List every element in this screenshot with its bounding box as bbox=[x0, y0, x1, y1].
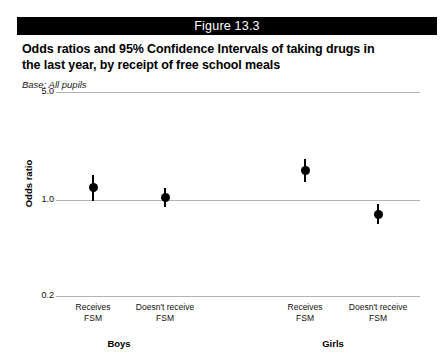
x-axis-label-line-2: FSM bbox=[330, 313, 426, 324]
data-point-marker bbox=[161, 193, 170, 202]
gridline-1-reference-line bbox=[56, 200, 420, 201]
y-tick-label-0-2: 0.2 bbox=[20, 290, 54, 300]
y-axis-title: Odds ratio bbox=[23, 149, 34, 219]
x-axis-label-line-1: Doesn't receive bbox=[117, 302, 213, 313]
x-axis-label-line-2: FSM bbox=[117, 313, 213, 324]
data-point-marker bbox=[301, 166, 310, 175]
x-axis-label: Doesn't receiveFSM bbox=[330, 302, 426, 323]
group-label-boys: Boys bbox=[44, 338, 194, 349]
plot-area: 5.0 1.0 0.2 Odds ratio ReceivesFSMDoesn'… bbox=[0, 0, 445, 360]
y-tick-label-5: 5.0 bbox=[20, 86, 54, 96]
data-point-marker bbox=[89, 183, 98, 192]
gridline-0-2 bbox=[56, 296, 420, 297]
gridline-5 bbox=[56, 92, 420, 93]
figure-root: Figure 13.3 Odds ratios and 95% Confiden… bbox=[0, 0, 445, 360]
x-axis-label: Doesn't receiveFSM bbox=[117, 302, 213, 323]
group-label-girls: Girls bbox=[258, 338, 408, 349]
x-axis-label-line-1: Doesn't receive bbox=[330, 302, 426, 313]
data-point-marker bbox=[374, 210, 383, 219]
